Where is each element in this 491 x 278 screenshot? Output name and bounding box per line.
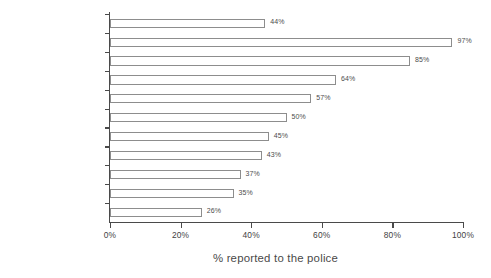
x-axis-tick-label: 60% bbox=[313, 230, 330, 241]
chart-row: Burglary with loss85% bbox=[110, 52, 463, 71]
plot-area: All comparable crime44%Theft of vehicle9… bbox=[110, 14, 463, 222]
y-axis-tick bbox=[105, 71, 110, 72]
chart-row: Wounding45% bbox=[110, 127, 463, 146]
x-axis-tick-label: 20% bbox=[172, 230, 189, 241]
bar-value-label: 26% bbox=[207, 206, 221, 215]
bar bbox=[110, 208, 202, 217]
bar-value-label: 43% bbox=[267, 150, 281, 159]
bar bbox=[110, 56, 410, 65]
bar bbox=[110, 113, 287, 122]
bar-value-label: 85% bbox=[415, 55, 429, 64]
x-axis-tick bbox=[110, 222, 111, 228]
bar bbox=[110, 151, 262, 160]
chart-row: Robbery57% bbox=[110, 90, 463, 109]
bar bbox=[110, 75, 336, 84]
bar-value-label: 50% bbox=[292, 112, 306, 121]
y-axis-tick bbox=[105, 52, 110, 53]
chart-row: All comparable crime44% bbox=[110, 14, 463, 33]
x-axis-tick bbox=[322, 222, 323, 228]
y-axis-tick bbox=[105, 146, 110, 147]
chart-row: Burglary no loss50% bbox=[110, 109, 463, 128]
bar bbox=[110, 38, 452, 47]
chart-row: Theft from person35% bbox=[110, 184, 463, 203]
bar-value-label: 97% bbox=[457, 36, 471, 45]
x-axis-title: % reported to the police bbox=[0, 251, 491, 266]
bar-value-label: 44% bbox=[270, 17, 284, 26]
y-axis-tick bbox=[105, 165, 110, 166]
bar bbox=[110, 94, 311, 103]
bar-value-label: 57% bbox=[316, 93, 330, 102]
bar-value-label: 37% bbox=[246, 169, 260, 178]
bar bbox=[110, 19, 265, 28]
y-axis-tick bbox=[105, 33, 110, 34]
x-axis-tick bbox=[463, 222, 464, 228]
bar bbox=[110, 132, 269, 141]
y-axis-tick bbox=[105, 184, 110, 185]
bar-value-label: 35% bbox=[239, 188, 253, 197]
bar-value-label: 64% bbox=[341, 74, 355, 83]
chart-row: Theft from vehicle43% bbox=[110, 146, 463, 165]
x-axis-tick-label: 0% bbox=[104, 230, 117, 241]
bar-value-label: 45% bbox=[274, 131, 288, 140]
y-axis-tick bbox=[105, 127, 110, 128]
x-axis-tick-label: 100% bbox=[452, 230, 474, 241]
x-axis-line bbox=[109, 222, 464, 223]
y-axis-tick bbox=[105, 203, 110, 204]
chart-row: Theft of vehicle97% bbox=[110, 33, 463, 52]
y-axis-tick bbox=[105, 109, 110, 110]
y-axis-tick bbox=[105, 14, 110, 15]
bar bbox=[110, 189, 234, 198]
x-axis-tick-label: 80% bbox=[384, 230, 401, 241]
chart-row: Bicycle theft64% bbox=[110, 71, 463, 90]
chart-row: Attempted vehicle theft37% bbox=[110, 165, 463, 184]
x-axis-tick bbox=[251, 222, 252, 228]
x-axis-tick bbox=[181, 222, 182, 228]
bar bbox=[110, 170, 241, 179]
x-axis-tick bbox=[392, 222, 393, 228]
bar-chart: All comparable crime44%Theft of vehicle9… bbox=[0, 0, 491, 278]
x-axis-tick-label: 40% bbox=[243, 230, 260, 241]
y-axis-tick bbox=[105, 90, 110, 91]
chart-row: Vandalism26% bbox=[110, 203, 463, 222]
